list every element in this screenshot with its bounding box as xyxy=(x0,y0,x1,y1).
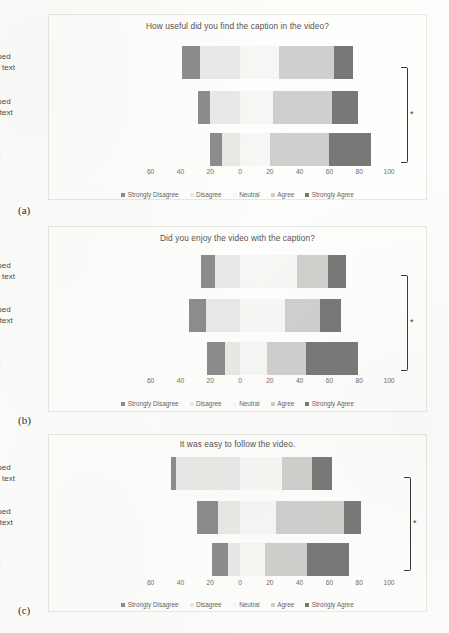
bar-segment xyxy=(222,133,240,166)
category-label-line: with current news text xyxy=(0,518,49,529)
legend-label: Neutral xyxy=(239,400,260,407)
significance-bracket xyxy=(401,275,408,371)
stacked-bar xyxy=(212,543,349,576)
legend-label: Agree xyxy=(277,601,294,608)
category-label: Captions withno overlapping xyxy=(0,549,49,570)
bar-segment xyxy=(182,46,200,79)
x-axis: 604020020406080100 xyxy=(49,579,426,591)
bar-segment xyxy=(215,255,240,288)
category-label-line: Captions overlapped xyxy=(0,97,49,108)
bar-segment xyxy=(273,91,333,124)
bar-segment xyxy=(240,91,273,124)
stacked-bar xyxy=(198,91,357,124)
legend-label: Agree xyxy=(277,400,294,407)
legend-swatch xyxy=(305,402,309,406)
legend-label: Disagree xyxy=(196,400,222,407)
x-axis-tick: 100 xyxy=(383,579,394,586)
bar-segment xyxy=(267,342,306,375)
bar-segment xyxy=(197,501,218,534)
category-label-line: with scrolling news text xyxy=(0,272,49,283)
bar-segment xyxy=(176,457,240,490)
legend-swatch xyxy=(271,402,275,406)
x-axis-tick: 0 xyxy=(238,377,242,384)
category-label-line: with scrolling news text xyxy=(0,474,49,485)
legend-swatch xyxy=(233,193,237,197)
legend-swatch xyxy=(190,603,194,607)
category-label: Captions overlappedwith scrolling news t… xyxy=(0,261,49,282)
significance-marker: * xyxy=(410,318,414,327)
category-label: Captions overlappedwith scrolling news t… xyxy=(0,52,49,73)
bar-segment xyxy=(320,299,341,332)
x-axis-tick: 60 xyxy=(326,377,333,384)
category-label-line: no overlapping xyxy=(0,560,49,571)
x-axis-tick: 80 xyxy=(356,579,363,586)
x-axis-tick: 60 xyxy=(147,579,154,586)
x-axis-tick: 80 xyxy=(356,377,363,384)
bar-segment xyxy=(225,342,240,375)
x-axis-tick: 40 xyxy=(177,168,184,175)
x-axis-tick: 20 xyxy=(207,168,214,175)
chart-panel-a: How useful did you find the caption in t… xyxy=(48,14,427,200)
bar-segment xyxy=(206,299,240,332)
x-axis-tick: 20 xyxy=(207,377,214,384)
bar-segment xyxy=(228,543,240,576)
subfigure-caption-b: (b) xyxy=(18,414,31,426)
legend-swatch xyxy=(305,193,309,197)
bar-segment xyxy=(189,299,205,332)
bar-segment xyxy=(210,133,222,166)
legend-label: Agree xyxy=(277,191,294,198)
bar-segment xyxy=(198,91,210,124)
bar-segment xyxy=(265,543,307,576)
legend-item: Strongly Disagree xyxy=(121,191,178,198)
legend-swatch xyxy=(121,193,125,197)
category-label-line: Captions overlapped xyxy=(0,463,49,474)
legend-swatch xyxy=(190,193,194,197)
bar-segment xyxy=(276,501,345,534)
category-label-line: Captions overlapped xyxy=(0,52,49,63)
bar-segment xyxy=(297,255,328,288)
legend: Strongly DisagreeDisagreeNeutralAgreeStr… xyxy=(49,601,426,608)
legend-label: Strongly Disagree xyxy=(128,400,179,407)
legend-label: Neutral xyxy=(239,191,260,198)
category-label: Captions overlappedwith current news tex… xyxy=(0,97,49,118)
legend-label: Neutral xyxy=(239,601,260,608)
plot-area-b: Captions overlappedwith scrolling news t… xyxy=(49,227,426,411)
x-axis-tick: 60 xyxy=(147,168,154,175)
bar-segment xyxy=(312,457,333,490)
bar-segment xyxy=(240,342,267,375)
x-axis-tick: 40 xyxy=(177,579,184,586)
x-axis-tick: 0 xyxy=(238,168,242,175)
stacked-bar xyxy=(207,342,357,375)
category-label-line: with current news text xyxy=(0,316,49,327)
legend-item: Disagree xyxy=(190,601,222,608)
bar-segment xyxy=(212,543,228,576)
x-axis-tick: 0 xyxy=(238,579,242,586)
bar-segment xyxy=(344,501,360,534)
legend-label: Strongly Agree xyxy=(312,400,354,407)
bar-segment xyxy=(218,501,240,534)
bar-segment xyxy=(200,46,240,79)
plot-area-a: Captions overlappedwith scrolling news t… xyxy=(49,15,426,199)
stacked-bar xyxy=(197,501,361,534)
plot-area-c: Captions overlappedwith scrolling news t… xyxy=(49,435,426,611)
bar-segment xyxy=(207,342,225,375)
legend-item: Agree xyxy=(271,601,295,608)
legend-swatch xyxy=(271,603,275,607)
bar-segment xyxy=(332,91,357,124)
legend-label: Strongly Disagree xyxy=(128,191,179,198)
bar-segment xyxy=(201,255,214,288)
bar-segment xyxy=(240,457,282,490)
chart-panel-b: Did you enjoy the video with the caption… xyxy=(48,226,427,412)
category-label: Captions overlappedwith current news tex… xyxy=(0,305,49,326)
legend-item: Disagree xyxy=(190,400,222,407)
category-label-line: no overlapping xyxy=(0,359,49,370)
legend-swatch xyxy=(121,402,125,406)
bar-segment xyxy=(334,46,353,79)
x-axis-tick: 60 xyxy=(326,579,333,586)
stacked-bar xyxy=(189,299,341,332)
x-axis-tick: 20 xyxy=(207,579,214,586)
legend-item: Strongly Agree xyxy=(305,601,353,608)
significance-marker: * xyxy=(413,519,417,528)
bar-segment xyxy=(282,457,312,490)
legend-swatch xyxy=(233,603,237,607)
